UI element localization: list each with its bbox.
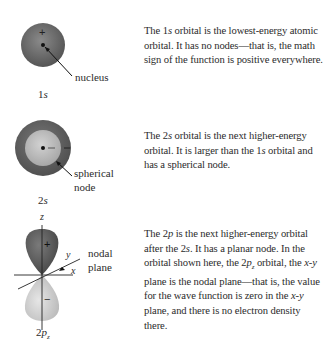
sphere-1s-icon bbox=[0, 0, 140, 110]
orbital-2pz-figure: z y x + − nodalplane 2pz bbox=[0, 215, 140, 351]
description-2pz: The 2p is the next higher-energy orbital… bbox=[144, 227, 324, 333]
orbital-2s-figure: sphericalnode 2s bbox=[0, 110, 140, 220]
orbital-1s-figure: + nucleus 1s bbox=[0, 0, 140, 110]
callout-nucleus: nucleus bbox=[75, 71, 109, 83]
axis-x-label: x bbox=[71, 265, 75, 276]
axis-z-label: z bbox=[40, 211, 44, 222]
orbital-label-2pz: 2pz bbox=[36, 326, 50, 341]
orbital-label-2s: 2s bbox=[38, 194, 48, 206]
callout-nodal-plane: nodalplane bbox=[88, 246, 112, 274]
p-orbital-dumbbell-icon bbox=[0, 215, 140, 351]
callout-spherical-node: sphericalnode bbox=[74, 166, 114, 194]
sign-plus: + bbox=[39, 26, 45, 38]
orbital-label-1s: 1s bbox=[38, 88, 48, 100]
description-1s: The 1s orbital is the lowest-energy atom… bbox=[144, 24, 324, 68]
sign-minus-bottom: − bbox=[44, 293, 50, 305]
description-2s: The 2s orbital is the next higher-energy… bbox=[144, 129, 324, 173]
sign-plus-top: + bbox=[44, 238, 50, 250]
sphere-2s-icon bbox=[0, 110, 140, 220]
axis-y-label: y bbox=[66, 249, 70, 260]
